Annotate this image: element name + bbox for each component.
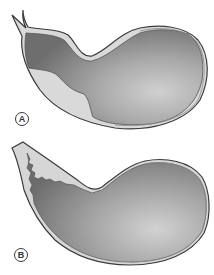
stomach-figure-b: B	[0, 135, 214, 275]
panel-label-a: A	[15, 112, 29, 126]
stomach-illustration-a	[0, 0, 214, 140]
stomach-figure-a: A	[0, 0, 214, 140]
stomach-illustration-b	[0, 135, 214, 275]
panel-label-b: B	[14, 248, 28, 262]
